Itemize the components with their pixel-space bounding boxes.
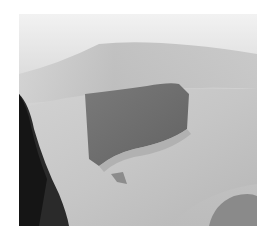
photo-scene xyxy=(19,14,257,226)
photo xyxy=(19,14,257,226)
